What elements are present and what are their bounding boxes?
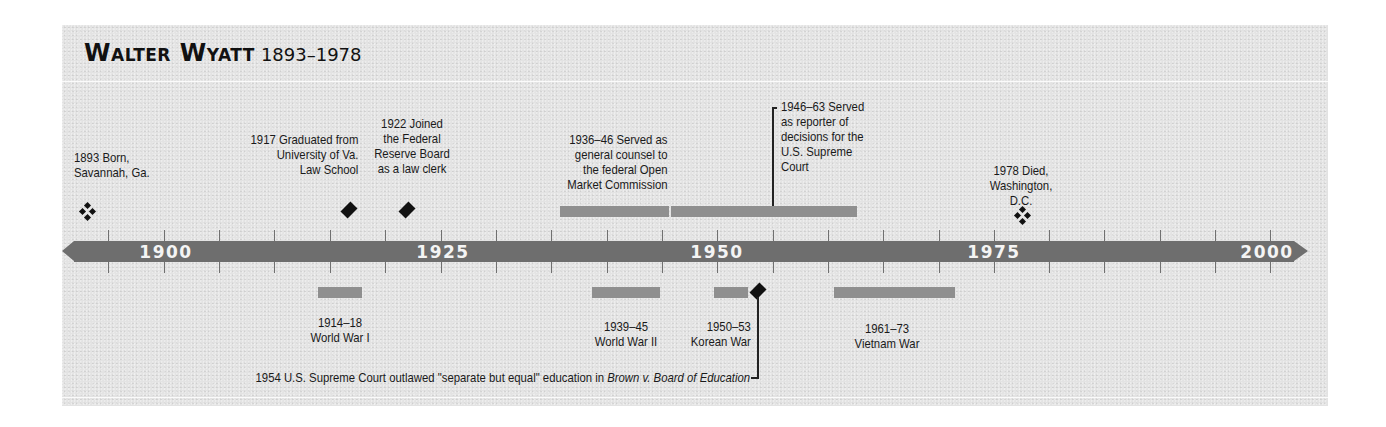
- quad-diamond-icon: [80, 203, 96, 221]
- period-bar-ww2: [592, 287, 660, 298]
- world-event-ww2: 1939–45 World War II: [574, 319, 677, 349]
- axis-label-1925: 1925: [416, 242, 469, 262]
- world-event-korea: 1950–53 Korean War: [691, 319, 751, 349]
- timeline-panel: Walter Wyatt1893–1978 1893 Born, Savanna…: [62, 25, 1328, 406]
- leader-line-1954: [757, 297, 759, 379]
- event-label-1936-46: 1936–46 Served as general counsel to the…: [568, 132, 668, 192]
- axis-label-1900: 1900: [139, 242, 192, 262]
- header-divider: [62, 81, 1328, 82]
- leader-tick-1946-63: [772, 107, 777, 109]
- axis-label-2000: 2000: [1240, 242, 1293, 262]
- footer-divider: [62, 397, 1328, 398]
- leader-line-1946-63: [772, 107, 774, 207]
- leader-tick-1954: [751, 377, 758, 379]
- event-label-1978: 1978 Died, Washington, D.C.: [974, 163, 1069, 208]
- event-label-1893: 1893 Born, Savannah, Ga.: [74, 150, 150, 180]
- period-bar-vietnam: [834, 287, 955, 298]
- event-label-1922: 1922 Joined the Federal Reserve Board as…: [365, 116, 460, 176]
- footnote-brown-v-board: 1954 U.S. Supreme Court outlawed "separa…: [255, 370, 750, 385]
- arrow-left-icon: [62, 241, 74, 261]
- event-label-1917: 1917 Graduated from University of Va. La…: [250, 132, 358, 177]
- event-label-1946-63: 1946–63 Served as reporter of decisions …: [781, 99, 864, 174]
- period-bar-1936-46: [560, 206, 669, 217]
- axis-label-1975: 1975: [967, 242, 1020, 262]
- diamond-icon: [341, 202, 358, 219]
- axis-bar: [74, 241, 1294, 262]
- world-event-vietnam: 1961–73 Vietnam War: [844, 321, 930, 351]
- timeline-title: Walter Wyatt1893–1978: [84, 39, 362, 67]
- arrow-right-icon: [1294, 241, 1308, 261]
- world-event-ww1: 1914–18 World War I: [288, 315, 391, 345]
- period-bar-ww1: [318, 287, 362, 298]
- diamond-icon: [399, 202, 416, 219]
- quad-diamond-icon: [1015, 207, 1031, 225]
- title-dates: 1893–1978: [261, 44, 362, 65]
- period-bar-1946-63: [671, 206, 857, 217]
- title-name: Walter Wyatt: [84, 39, 255, 67]
- period-bar-korea: [714, 287, 748, 298]
- axis-label-1950: 1950: [690, 242, 743, 262]
